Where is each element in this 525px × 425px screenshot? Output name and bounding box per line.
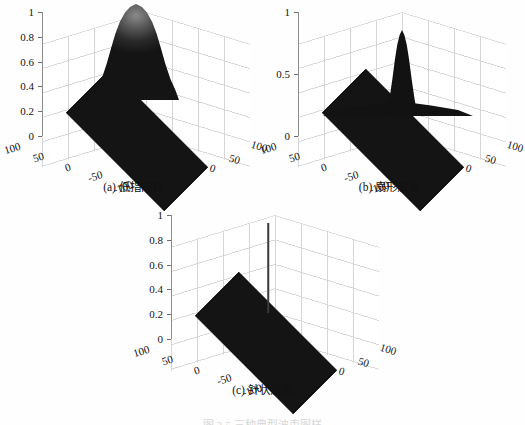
z-axis-line bbox=[298, 12, 299, 136]
z-tick-label: 1 bbox=[6, 7, 34, 18]
z-tick-label: 1 bbox=[262, 7, 290, 18]
z-tick-label: 0.4 bbox=[6, 81, 34, 92]
subplot-c: 1 0.8 0.6 0.4 0.2 0 100 50 0 -50 -100 -1… bbox=[131, 205, 393, 405]
z-tickmark bbox=[167, 314, 171, 315]
z-tick-label: 0.6 bbox=[135, 260, 163, 271]
axes3d-a: 1 0.8 0.6 0.4 0.2 0 100 50 0 -50 -100 -1… bbox=[20, 10, 252, 172]
x-tick-label: 0 bbox=[338, 365, 346, 377]
x-tick-label: 100 bbox=[506, 139, 525, 154]
z-tickmark bbox=[38, 86, 42, 87]
y-tick-label: 100 bbox=[259, 141, 278, 156]
z-tick-label: 0 bbox=[262, 131, 290, 142]
z-tick-label: 0.5 bbox=[262, 69, 290, 80]
y-tick-label: 100 bbox=[132, 344, 151, 359]
z-tick-label: 0.8 bbox=[6, 32, 34, 43]
subplot-a: 1 0.8 0.6 0.4 0.2 0 100 50 0 -50 -100 -1… bbox=[2, 2, 264, 202]
z-tickmark bbox=[294, 136, 298, 137]
z-tickmark bbox=[167, 240, 171, 241]
figure-caption-clipped: 图 3-5 三种典型波束图样 bbox=[0, 416, 525, 425]
z-tickmark bbox=[38, 111, 42, 112]
z-tick-label: 0.4 bbox=[135, 284, 163, 295]
z-tick-label: 1 bbox=[135, 210, 163, 221]
y-tick-label: 0 bbox=[64, 161, 72, 173]
y-tick-label: 100 bbox=[3, 141, 22, 156]
z-tickmark bbox=[167, 215, 171, 216]
z-tickmark bbox=[38, 136, 42, 137]
z-tickmark bbox=[294, 12, 298, 13]
z-tick-label: 0 bbox=[135, 334, 163, 345]
beam-needle-pencil bbox=[267, 223, 269, 313]
y-tick-label: 0 bbox=[320, 161, 328, 173]
z-axis-line bbox=[171, 215, 172, 339]
z-tick-label: 0.2 bbox=[6, 106, 34, 117]
subplot-caption-b: (b) 扇形波束 bbox=[258, 178, 520, 194]
z-tick-label: 0.8 bbox=[135, 235, 163, 246]
subplot-caption-c: (c) 针状波束 bbox=[131, 381, 393, 397]
subplot-caption-a: (a) 低指向性 bbox=[2, 178, 264, 194]
plot-area-a: 1 0.8 0.6 0.4 0.2 0 100 50 0 -50 -100 -1… bbox=[2, 2, 264, 180]
y-tick-label: 0 bbox=[193, 364, 201, 376]
x-tick-label: 0 bbox=[465, 162, 473, 174]
plot-area-c: 1 0.8 0.6 0.4 0.2 0 100 50 0 -50 -100 -1… bbox=[131, 205, 393, 383]
z-tick-label: 0.6 bbox=[6, 57, 34, 68]
z-tickmark bbox=[167, 339, 171, 340]
axes3d-b: 1 0.5 0 100 50 0 -50 -100 -100 -50 0 50 … bbox=[276, 10, 508, 172]
axes3d-c: 1 0.8 0.6 0.4 0.2 0 100 50 0 -50 -100 -1… bbox=[149, 213, 381, 375]
x-tick-label: 100 bbox=[379, 342, 398, 357]
z-tickmark bbox=[38, 37, 42, 38]
z-tickmark bbox=[167, 289, 171, 290]
x-tick-label: 0 bbox=[209, 162, 217, 174]
z-axis-line bbox=[42, 12, 43, 136]
z-tickmark bbox=[38, 62, 42, 63]
z-tick-label: 0.2 bbox=[135, 309, 163, 320]
z-tickmark bbox=[38, 12, 42, 13]
z-tickmark bbox=[294, 74, 298, 75]
figure-root: 1 0.8 0.6 0.4 0.2 0 100 50 0 -50 -100 -1… bbox=[0, 0, 525, 425]
plot-area-b: 1 0.5 0 100 50 0 -50 -100 -100 -50 0 50 … bbox=[258, 2, 520, 180]
z-tickmark bbox=[167, 265, 171, 266]
z-tick-label: 0 bbox=[6, 131, 34, 142]
subplot-b: 1 0.5 0 100 50 0 -50 -100 -100 -50 0 50 … bbox=[258, 2, 520, 202]
